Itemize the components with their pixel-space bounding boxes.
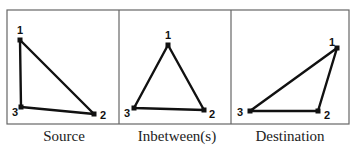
vertex-label: 1 [329,36,335,48]
vertex-handle [316,109,321,114]
vertex-handle [202,108,207,113]
triangle-0 [20,40,94,114]
vertex-handle [335,46,340,51]
vertex-label: 2 [100,109,106,121]
vertex-handle [19,105,24,110]
vertex-label: 3 [237,106,243,118]
vertex-label: 1 [165,29,171,41]
triangle-1 [134,45,204,110]
vertex-label: 3 [124,107,130,119]
vertex-label: 3 [12,106,18,118]
vertex-label: 2 [209,108,215,120]
vertex-label: 1 [17,24,23,36]
vertex-handle [18,38,23,43]
caption-destination: Destination [234,128,346,145]
vertex-handle [248,109,253,114]
triangle-2 [250,48,337,111]
vertex-label: 2 [324,109,330,121]
vertex-handle [132,106,137,111]
vertex-handle [92,112,97,117]
frame [7,10,349,124]
caption-source: Source [8,128,120,145]
caption-inbetween: Inbetween(s) [121,128,233,145]
vertex-handle [166,43,171,48]
